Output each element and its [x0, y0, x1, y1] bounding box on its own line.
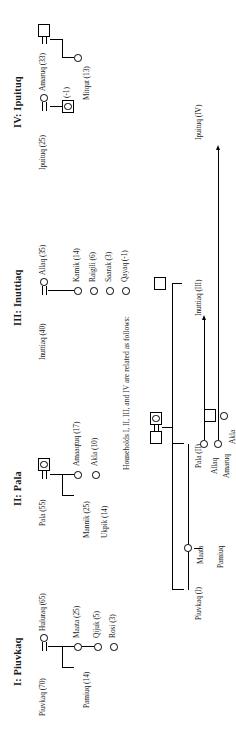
triangle-icon-inuttiaq-parent — [156, 280, 163, 288]
connector-piuvkaq-pala — [188, 444, 189, 590]
triangle-icon-pala — [40, 480, 47, 488]
household-I-father-label: Piuvkaq (70) — [38, 678, 47, 716]
circle-icon-akla-II — [92, 471, 100, 479]
circle-icon-qijuk — [94, 643, 102, 651]
circle-icon-raigili — [90, 287, 98, 295]
household-III-child-0-label: Kamik (14) — [72, 248, 81, 282]
ancestor-descent-line — [162, 427, 172, 428]
relation-node-inuttiaq: Inuttiaq (III) — [194, 280, 203, 316]
marriage-dash-maata — [194, 548, 202, 549]
household-III-title: III: Inuttiaq — [12, 270, 23, 326]
circle-icon-kamik — [74, 287, 82, 295]
circle-icon-deceased-mother-II — [40, 461, 48, 469]
household-IV-child-1-label: Mitqut (13) — [82, 66, 91, 100]
household-I-grandchild-0-label: Qijuk (5) — [92, 611, 101, 638]
arrow-head-amaruq-ipuituq — [216, 145, 220, 150]
circle-icon-mitqut — [74, 54, 82, 62]
relation-node-ipuituq: Ipuituq (IV) — [194, 105, 203, 140]
relation-node-allaq: Allaq — [210, 458, 219, 474]
sibling-drop-I-1 — [62, 667, 74, 668]
circle-icon-rosi — [110, 643, 118, 651]
sibling-drop-pala — [172, 443, 184, 444]
descent-line-I-maata — [82, 646, 94, 647]
triangle-icon-inuttiaq — [40, 296, 47, 304]
circle-icon-amaaqtuq — [74, 471, 82, 479]
descent-line-III — [48, 290, 74, 291]
household-I-child-1-label: Maata (25) — [72, 606, 81, 638]
circle-icon-saarak — [106, 287, 114, 295]
relation-node-piuvkaq: Piuvkaq (I) — [194, 587, 203, 620]
circle-icon-amaruq — [40, 94, 48, 102]
household-IV-mother-label: Amaruq (33) — [38, 53, 47, 91]
triangle-icon-ukpik — [92, 492, 99, 500]
triangle-icon-ipuituq — [40, 112, 47, 120]
sibling-drop-piuvkaq — [172, 589, 184, 590]
arrow-line-allaq-inuttiaq — [204, 320, 205, 440]
household-I-grandchild-1-label: Rosi (3) — [108, 614, 117, 638]
circle-icon-maata — [74, 643, 82, 651]
relation-diagram: Households I, II, III, and IV are relate… — [120, 0, 228, 740]
descent-line-II — [50, 474, 62, 475]
triangle-icon-akla-line — [206, 412, 213, 420]
sibling-drop-II-1 — [62, 495, 74, 496]
relation-node-pamiuq: Pamiuq — [216, 546, 225, 568]
household-III-father-label: Inuttiaq (40) — [38, 324, 47, 361]
triangle-icon-former-husband-IV — [40, 27, 47, 35]
household-III-child-1-label: Raigili (6) — [88, 252, 97, 282]
marriage-link-IV-2 — [42, 36, 47, 44]
circle-icon-deceased-child-IV — [64, 103, 72, 111]
relation-diagram-caption: Households I, II, III, and IV are relate… — [122, 316, 131, 470]
household-III-child-2-label: Saarak (3) — [104, 252, 113, 282]
descent-drop-IV-2 — [62, 57, 74, 58]
descent-line-I — [48, 646, 62, 647]
triangle-icon-pamiuq-relation — [206, 544, 213, 552]
triangle-icon-ipuituq-relation — [184, 96, 191, 104]
circle-icon-akla-relation — [220, 412, 228, 420]
household-IV-child-0-label: (-1) — [62, 87, 71, 98]
household-I-title: I: Piuvkaq — [12, 637, 23, 686]
triangle-icon-pamiuq — [74, 664, 81, 672]
marriage-link-II — [42, 470, 47, 479]
sibling-bar-II — [62, 474, 63, 496]
circle-icon-allaq — [40, 278, 48, 286]
rotated-figure-wrapper: I: Piuvkaq Piuvkaq (70) Huluraq (65) Pam… — [0, 0, 228, 740]
relation-node-amaruq: Amaruq — [222, 454, 228, 478]
sibling-drop-II-2 — [62, 474, 74, 475]
sibling-drop-bracket-male — [172, 283, 182, 284]
arrow-line-amaruq-ipuituq — [218, 150, 219, 440]
household-IV-father-label: Ipuituq (25) — [38, 135, 47, 170]
ancestor-sibling-bar — [172, 284, 173, 590]
marriage-link-IV-1 — [42, 102, 47, 111]
household-I-mother-label: Huluraq (65) — [38, 593, 47, 631]
marriage-link-III — [42, 286, 47, 295]
sibling-drop-I-2 — [62, 646, 74, 647]
household-II-father-label: Pala (55) — [38, 500, 47, 526]
circle-icon-maata-relation — [184, 544, 192, 552]
triangle-icon-piuvkaq — [40, 652, 47, 660]
kinship-figure-canvas: I: Piuvkaq Piuvkaq (70) Huluraq (65) Pam… — [0, 0, 228, 740]
household-II-child-2-label: Amaaqtuq (17) — [72, 422, 81, 466]
circle-icon-allaq-relation — [200, 440, 208, 448]
circle-icon-huluraq — [40, 634, 48, 642]
household-II-child-3-label: Akla (10) — [90, 438, 99, 466]
marriage-link-I — [42, 642, 47, 651]
household-III-mother-label: Allaq (35) — [38, 245, 47, 275]
triangle-icon-inuttiaq-relation — [184, 280, 191, 288]
household-IV-title: IV: Ipuituq — [12, 76, 23, 128]
circle-icon-ancestor — [152, 415, 160, 423]
sibling-bar-I — [62, 646, 63, 668]
circle-icon-amaruq-relation — [214, 440, 222, 448]
marriage-link-ancestors — [154, 424, 159, 432]
household-I-child-0-label: Pamiuq (14) — [82, 672, 91, 708]
household-II-child-0-label: Mannik (25) — [82, 501, 91, 538]
triangle-icon-ancestor — [152, 434, 159, 442]
household-II-title: II: Pala — [12, 471, 23, 506]
triangle-icon-mannik — [74, 492, 81, 500]
household-II-child-1-label: Ukpik (14) — [100, 506, 109, 538]
descent-bar-IV-2 — [62, 39, 63, 58]
descent-line-IV-2 — [50, 39, 62, 40]
